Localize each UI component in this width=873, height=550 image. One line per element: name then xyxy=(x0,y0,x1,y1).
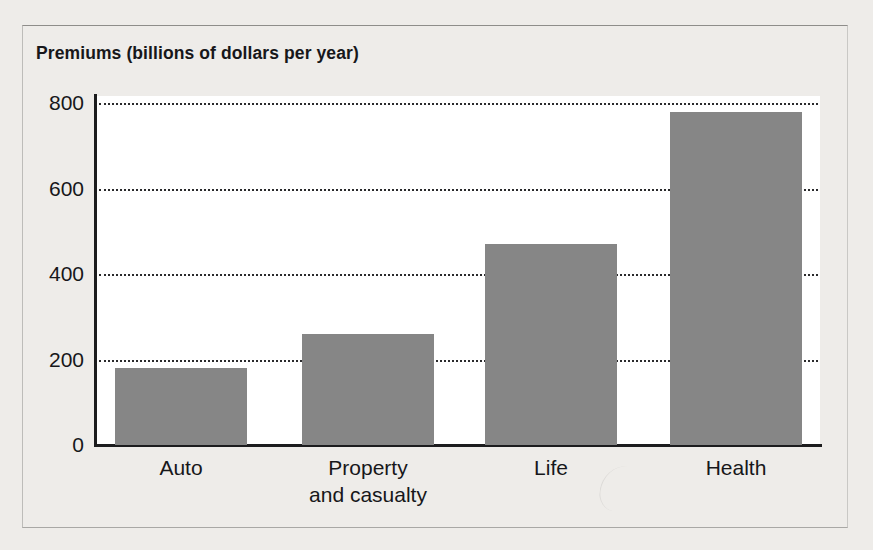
x-tick-label-line1: Auto xyxy=(81,455,281,482)
x-tick-label-line1: Property xyxy=(268,455,468,482)
x-tick-label-health: Health xyxy=(636,455,836,482)
x-tick-label-line2: and casualty xyxy=(268,482,468,509)
y-tick-label-0: 0 xyxy=(10,434,84,455)
bar-life[interactable] xyxy=(485,244,617,445)
x-tick-label-life: Life xyxy=(451,455,651,482)
bar-health[interactable] xyxy=(670,112,802,445)
x-tick-label-property: Propertyand casualty xyxy=(268,455,468,509)
bar-auto[interactable] xyxy=(115,368,247,445)
x-tick-label-line1: Health xyxy=(636,455,836,482)
y-tick-label-400: 400 xyxy=(10,263,84,284)
y-tick-label-600: 600 xyxy=(10,178,84,199)
y-tick-label-800: 800 xyxy=(10,92,84,113)
y-tick-label-200: 200 xyxy=(10,349,84,370)
x-tick-label-auto: Auto xyxy=(81,455,281,482)
bar-property[interactable] xyxy=(302,334,434,445)
x-tick-label-line1: Life xyxy=(451,455,651,482)
chart-title: Premiums (billions of dollars per year) xyxy=(36,43,359,64)
gridline-800 xyxy=(99,103,818,105)
y-axis-line xyxy=(94,94,97,447)
